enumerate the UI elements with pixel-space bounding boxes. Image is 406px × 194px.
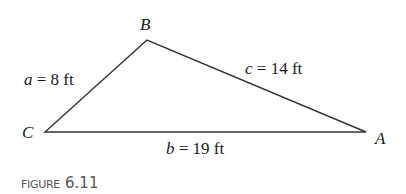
triangle-abc	[45, 40, 366, 132]
caption-word: FIGURE	[21, 178, 60, 191]
side-label-a: a = 8 ft	[24, 71, 74, 88]
figure-caption: FIGURE 6.11	[21, 175, 98, 191]
side-a-variable: a	[24, 70, 33, 89]
vertex-label-b: B	[140, 16, 150, 33]
caption-number: 6.11	[65, 174, 98, 192]
side-c-variable: c	[245, 59, 253, 78]
triangle-diagram	[0, 0, 406, 194]
vertex-label-a: A	[375, 130, 385, 147]
vertex-label-c: C	[22, 124, 33, 141]
side-c-value: = 14 ft	[253, 59, 303, 78]
side-a-value: = 8 ft	[33, 70, 74, 89]
side-b-variable: b	[166, 139, 175, 158]
side-label-c: c = 14 ft	[245, 60, 302, 77]
side-b-value: = 19 ft	[175, 139, 225, 158]
side-label-b: b = 19 ft	[166, 140, 224, 157]
